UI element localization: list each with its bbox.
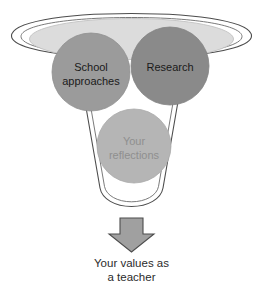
- your-reflections-label-line-2: reflections: [109, 149, 160, 161]
- your-reflections-label-line-1: Your: [123, 135, 146, 147]
- outcome-label-line-2: a teacher: [108, 271, 156, 283]
- outcome-label-line-1: Your values as: [94, 257, 169, 269]
- down-arrow: [109, 218, 154, 252]
- input-circle-research: Research: [131, 27, 209, 105]
- down-arrow-shape: [109, 218, 154, 252]
- outcome-caption: Your values as a teacher: [94, 257, 169, 283]
- research-label-line-1: Research: [146, 61, 193, 73]
- funnel-diagram: School approaches Research Your reflecti…: [0, 0, 263, 286]
- input-circle-school-approaches: School approaches: [52, 33, 130, 111]
- school-approaches-label-line-1: School: [74, 61, 108, 73]
- input-circle-your-reflections: Your reflections: [97, 109, 171, 183]
- funnel-diagram-svg: School approaches Research Your reflecti…: [0, 0, 263, 286]
- school-approaches-label-line-2: approaches: [62, 75, 120, 87]
